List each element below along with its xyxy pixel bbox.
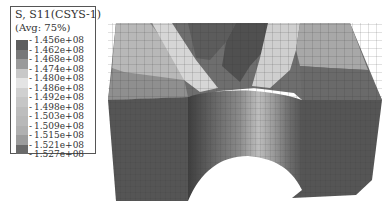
inner-cylinder-surface bbox=[188, 91, 302, 201]
front-right-block bbox=[292, 100, 382, 198]
fe-model-view bbox=[0, 0, 389, 209]
front-left-block bbox=[108, 97, 188, 201]
